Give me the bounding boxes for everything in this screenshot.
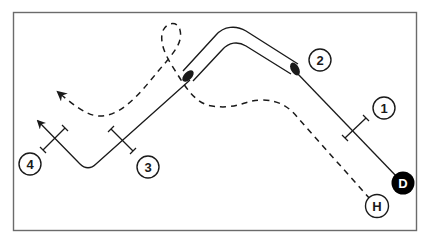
svg-text:4: 4 — [26, 157, 34, 172]
svg-text:2: 2 — [316, 53, 323, 68]
diagram-frame — [14, 13, 417, 231]
callout-1: 1 — [373, 97, 395, 119]
route-diagram: 2 1 3 4 D H — [0, 0, 430, 246]
callout-4: 4 — [19, 153, 41, 175]
marker-D: D — [392, 172, 415, 195]
callout-2: 2 — [309, 49, 331, 71]
svg-text:3: 3 — [144, 160, 151, 175]
svg-text:H: H — [372, 199, 381, 214]
svg-text:D: D — [398, 176, 407, 191]
svg-text:1: 1 — [380, 101, 387, 116]
marker-H: H — [366, 195, 389, 218]
callout-3: 3 — [137, 156, 159, 178]
diagram-canvas: 2 1 3 4 D H — [0, 0, 430, 246]
